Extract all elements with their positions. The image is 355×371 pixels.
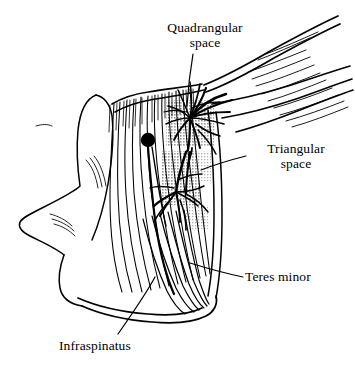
triangular-space-shade-extension <box>197 151 211 181</box>
label-quadrangular-line2: space <box>155 35 255 50</box>
anatomical-figure: Quadrangular space Triangular space Tere… <box>0 0 355 371</box>
label-teres-minor-line1: Teres minor <box>245 269 311 284</box>
label-quadrangular-space: Quadrangular space <box>155 20 255 50</box>
shoulder-anatomy-drawing <box>0 0 355 371</box>
label-teres-minor: Teres minor <box>245 269 311 284</box>
label-quadrangular-line1: Quadrangular <box>167 20 242 35</box>
label-triangular-line2: space <box>248 156 344 171</box>
label-infraspinatus-line1: Infraspinatus <box>59 338 131 353</box>
label-triangular-space: Triangular space <box>248 141 344 171</box>
suprascapular-notch-dot <box>141 133 155 147</box>
label-infraspinatus: Infraspinatus <box>59 338 131 353</box>
label-triangular-line1: Triangular <box>267 141 325 156</box>
